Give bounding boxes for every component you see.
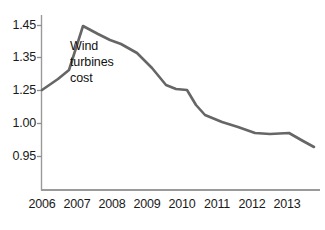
y-tick-label-3: 1.00: [2, 117, 36, 129]
x-tick-label-2012: 2012: [235, 198, 269, 211]
x-tick-label-2009: 2009: [130, 198, 164, 211]
series-annotation-line1: Wind: [70, 39, 98, 55]
y-tick-label-1: 1.35: [2, 51, 36, 63]
x-tick-label-2008: 2008: [95, 198, 129, 211]
x-tick-label-2006: 2006: [25, 198, 59, 211]
line-chart: 1.45 1.35 1.25 1.00 0.95 2006 2007 2008 …: [0, 0, 325, 230]
x-tick-label-2013: 2013: [270, 198, 304, 211]
y-tick-label-0: 1.45: [2, 19, 36, 31]
x-tick-label-2011: 2011: [200, 198, 234, 211]
series-annotation-line2: turbines: [70, 55, 114, 71]
series-annotation-line3: cost: [70, 71, 93, 87]
chart-canvas: [0, 0, 325, 230]
x-tick-label-2007: 2007: [60, 198, 94, 211]
x-tick-label-2010: 2010: [165, 198, 199, 211]
y-tick-label-2: 1.25: [2, 84, 36, 96]
y-tick-label-4: 0.95: [2, 150, 36, 162]
